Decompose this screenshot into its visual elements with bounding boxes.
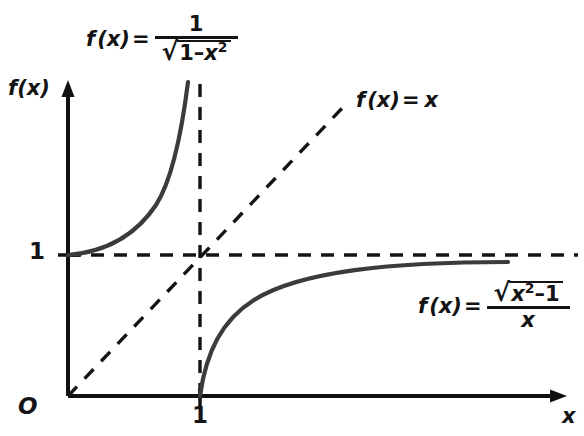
radicand: x2–1	[509, 281, 562, 305]
radical: √ 1–x2	[162, 40, 231, 64]
formula-equals-sign: =	[132, 29, 150, 50]
formula-denominator: x	[514, 309, 542, 331]
identity-line-f-of-x-equals-x	[68, 102, 348, 396]
formula-function-name: f	[418, 296, 427, 317]
upper-curve-formula-annotation: f(x) = 1 √ 1–x2	[86, 14, 238, 64]
y-axis-label: f(x)	[8, 78, 50, 99]
x-axis-arrowhead	[550, 390, 567, 403]
formula-argument: (x)	[429, 296, 462, 317]
radical-sign-icon: √	[494, 281, 511, 305]
formula-denominator: √ 1–x2	[155, 39, 238, 64]
radical-sign-icon: √	[162, 40, 179, 64]
formula-numerator: √ x2–1	[487, 281, 570, 306]
formula-right-hand-side: x	[425, 90, 439, 111]
graph-canvas	[0, 0, 584, 436]
formula-equals-sign: =	[464, 296, 482, 317]
y-tick-label-1: 1	[29, 240, 45, 263]
radicand: 1–x2	[177, 40, 230, 64]
formula-equals-sign: =	[402, 90, 420, 111]
function-graph-figure: f(x) x O 1 1 f(x) = 1 √ 1–x2 f(x) = x f(…	[0, 0, 584, 436]
x-tick-label-1: 1	[192, 404, 208, 427]
formula-numerator: 1	[182, 14, 211, 36]
formula-fraction: 1 √ 1–x2	[155, 14, 238, 64]
radical: √ x2–1	[494, 281, 563, 305]
x-axis-label: x	[562, 406, 576, 427]
y-axis-arrowhead	[62, 80, 75, 97]
formula-function-name: f	[86, 29, 95, 50]
formula-function-name: f	[356, 90, 365, 111]
curve-one-over-sqrt-one-minus-x-squared	[68, 82, 188, 255]
formula-fraction: √ x2–1 x	[487, 281, 570, 331]
diagonal-line-formula-annotation: f(x) = x	[356, 90, 438, 111]
lower-curve-formula-annotation: f(x) = √ x2–1 x	[418, 281, 570, 331]
formula-argument: (x)	[97, 29, 130, 50]
formula-argument: (x)	[367, 90, 400, 111]
origin-label: O	[18, 395, 38, 418]
